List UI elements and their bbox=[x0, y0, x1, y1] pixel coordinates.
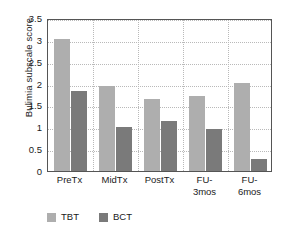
x-axis-tick-label: PostTx bbox=[137, 174, 182, 186]
bar-bct-midtx bbox=[116, 127, 132, 171]
y-axis-tick-label: 0.5 bbox=[14, 145, 42, 155]
x-axis-tick-label: PreTx bbox=[47, 174, 92, 186]
bar-bct-pretx bbox=[71, 91, 87, 171]
plot-area bbox=[47, 19, 272, 172]
bar-tbt-fu-3mos bbox=[189, 96, 205, 171]
bar-group bbox=[99, 20, 132, 171]
vertical-gridline bbox=[228, 20, 229, 171]
bar-chart-figure: Bulimia subscale score 00.511.522.533.5 … bbox=[0, 0, 287, 232]
vertical-gridline bbox=[183, 20, 184, 171]
bar-tbt-midtx bbox=[99, 86, 115, 171]
y-axis-tick-label: 1 bbox=[14, 124, 42, 134]
y-axis-tick-label: 0 bbox=[14, 167, 42, 177]
chart-legend: TBTBCT bbox=[47, 209, 272, 225]
legend-swatch-icon bbox=[99, 213, 108, 222]
legend-item-tbt[interactable]: TBT bbox=[47, 212, 79, 222]
y-axis-tick-label: 1.5 bbox=[14, 102, 42, 112]
bar-group bbox=[144, 20, 177, 171]
legend-swatch-icon bbox=[47, 213, 56, 222]
x-axis-tick-label: MidTx bbox=[92, 174, 137, 186]
y-axis-tick-labels: 00.511.522.533.5 bbox=[14, 19, 42, 172]
bar-group bbox=[54, 20, 87, 171]
x-axis-tick-label: FU- 6mos bbox=[227, 174, 272, 197]
bar-tbt-posttx bbox=[144, 99, 160, 171]
bar-group bbox=[189, 20, 222, 171]
vertical-gridline bbox=[138, 20, 139, 171]
y-axis-tick-label: 2 bbox=[14, 80, 42, 90]
bar-tbt-fu-6mos bbox=[234, 83, 250, 171]
legend-item-bct[interactable]: BCT bbox=[99, 212, 132, 222]
y-axis-tick-label: 3.5 bbox=[14, 14, 42, 24]
y-axis-tick-label: 2.5 bbox=[14, 58, 42, 68]
bar-bct-fu-3mos bbox=[206, 129, 222, 171]
vertical-gridline bbox=[93, 20, 94, 171]
y-axis-tick-label: 3 bbox=[14, 36, 42, 46]
bar-bct-posttx bbox=[161, 121, 177, 171]
plot-inner bbox=[48, 20, 271, 171]
legend-label: TBT bbox=[61, 212, 79, 222]
legend-label: BCT bbox=[113, 212, 132, 222]
bar-group bbox=[234, 20, 267, 171]
x-axis-tick-label: FU- 3mos bbox=[182, 174, 227, 197]
bar-tbt-pretx bbox=[54, 39, 70, 171]
x-axis-tick-labels: PreTxMidTxPostTxFU- 3mosFU- 6mos bbox=[47, 174, 272, 208]
bar-bct-fu-6mos bbox=[251, 159, 267, 171]
